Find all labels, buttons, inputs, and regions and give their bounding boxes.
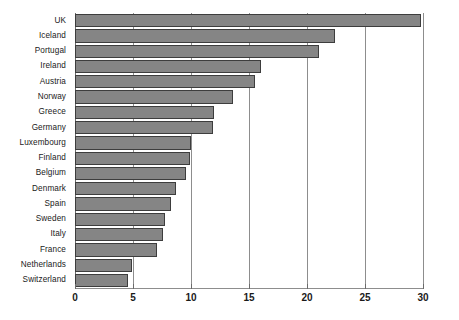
category-label: Switzerland xyxy=(0,273,70,288)
bar xyxy=(75,152,190,165)
category-label: Norway xyxy=(0,89,70,104)
bar-row xyxy=(75,13,437,28)
bar-row xyxy=(75,212,437,227)
bar-row xyxy=(75,135,437,150)
category-label: Spain xyxy=(0,196,70,211)
bar xyxy=(75,182,176,195)
bar xyxy=(75,90,233,103)
bar xyxy=(75,197,171,210)
bar-row xyxy=(75,166,437,181)
category-label: Ireland xyxy=(0,59,70,74)
bar xyxy=(75,213,165,226)
bar xyxy=(75,121,213,134)
category-label: Belgium xyxy=(0,166,70,181)
x-tick-label: 5 xyxy=(118,292,148,303)
bar-row xyxy=(75,120,437,135)
category-label: Denmark xyxy=(0,181,70,196)
bar-chart: UKIcelandPortugalIrelandAustriaNorwayGre… xyxy=(0,0,459,320)
category-label: Finland xyxy=(0,151,70,166)
bar-row xyxy=(75,151,437,166)
bar-row xyxy=(75,181,437,196)
category-label: Sweden xyxy=(0,212,70,227)
bar xyxy=(75,136,191,149)
bar xyxy=(75,106,214,119)
bar xyxy=(75,228,163,241)
category-label: Netherlands xyxy=(0,258,70,273)
x-tick-label: 15 xyxy=(234,292,264,303)
bar-row xyxy=(75,89,437,104)
category-label: Iceland xyxy=(0,28,70,43)
bar xyxy=(75,45,319,58)
bar xyxy=(75,29,335,42)
x-tick-label: 0 xyxy=(60,292,90,303)
category-label: Austria xyxy=(0,74,70,89)
bar-row xyxy=(75,44,437,59)
x-tick-20 xyxy=(307,284,308,289)
x-tick-label: 20 xyxy=(292,292,322,303)
bar xyxy=(75,243,157,256)
bar-row xyxy=(75,59,437,74)
category-label: Greece xyxy=(0,105,70,120)
bar xyxy=(75,75,255,88)
x-tick-label: 25 xyxy=(350,292,380,303)
x-tick-25 xyxy=(365,284,366,289)
category-label: Italy xyxy=(0,227,70,242)
bar-row xyxy=(75,105,437,120)
bar-row xyxy=(75,273,437,288)
bar-row xyxy=(75,258,437,273)
bar-series xyxy=(75,13,437,288)
bar-row xyxy=(75,227,437,242)
x-tick-15 xyxy=(249,284,250,289)
category-axis: UKIcelandPortugalIrelandAustriaNorwayGre… xyxy=(0,13,70,288)
bar xyxy=(75,14,421,27)
category-label: Portugal xyxy=(0,44,70,59)
category-label: Germany xyxy=(0,120,70,135)
x-tick-5 xyxy=(133,284,134,289)
x-tick-30 xyxy=(423,284,424,289)
bar-row xyxy=(75,196,437,211)
bar-row xyxy=(75,242,437,257)
x-tick-label: 30 xyxy=(408,292,438,303)
bar-row xyxy=(75,74,437,89)
bar xyxy=(75,259,132,272)
bar xyxy=(75,274,128,287)
bar xyxy=(75,167,186,180)
category-label: Luxembourg xyxy=(0,135,70,150)
bar-row xyxy=(75,28,437,43)
x-tick-0 xyxy=(75,284,76,289)
category-label: UK xyxy=(0,13,70,28)
bar xyxy=(75,60,261,73)
category-label: France xyxy=(0,242,70,257)
plot-area xyxy=(75,13,437,288)
x-tick-10 xyxy=(191,284,192,289)
x-tick-label: 10 xyxy=(176,292,206,303)
